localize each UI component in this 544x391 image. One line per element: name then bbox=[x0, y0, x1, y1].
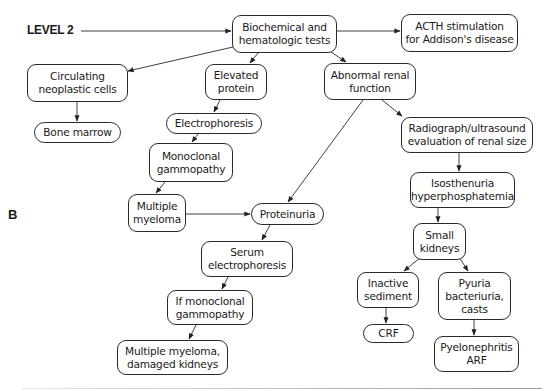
node-electrophoresis: Electrophoresis bbox=[166, 113, 262, 134]
arrow-if-monoclonal-to-damaged bbox=[189, 325, 196, 339]
node-proteinuria: Proteinuria bbox=[251, 203, 324, 225]
node-biochemical-tests: Biochemical and hematologic tests bbox=[232, 15, 337, 53]
node-bone-marrow: Bone marrow bbox=[34, 122, 121, 143]
node-serum-electrophoresis: Serum electrophoresis bbox=[201, 241, 293, 277]
node-elevated-protein: Elevated protein bbox=[205, 64, 267, 100]
node-monoclonal-gammopathy: Monoclonal gammopathy bbox=[149, 143, 233, 182]
arrow-serum-to-if-monoclonal bbox=[222, 277, 228, 289]
node-radiograph-ultrasound: Radiograph/ultrasound evaluation of rena… bbox=[401, 117, 533, 153]
node-inactive-sediment: Inactive sediment bbox=[357, 272, 419, 308]
level-label: LEVEL 2 bbox=[27, 23, 73, 37]
panel-label: B bbox=[8, 207, 17, 222]
arrow-elevated-to-electrophoresis bbox=[214, 100, 220, 112]
arrow-abnormal-renal-to-radiograph bbox=[382, 100, 402, 116]
node-small-kidneys: Small kidneys bbox=[413, 223, 466, 260]
node-circulating-cells: Circulating neoplastic cells bbox=[27, 64, 128, 102]
node-pyuria: Pyuria bacteriuria, casts bbox=[438, 272, 511, 320]
arrow-abnormal-renal-to-proteinuria bbox=[288, 100, 363, 202]
node-acth-stimulation: ACTH stimulation for Addison's disease bbox=[401, 14, 518, 52]
node-myeloma-damaged-kidneys: Multiple myeloma, damaged kidneys bbox=[117, 340, 228, 375]
arrow-biochemical-to-elevated bbox=[250, 53, 258, 63]
arrow-monoclonal-to-myeloma bbox=[156, 182, 165, 193]
diagnostic-flowchart: LEVEL 2 B Biochemical and hematologic te… bbox=[0, 0, 544, 391]
arrow-proteinuria-to-serum bbox=[262, 225, 270, 240]
arrow-electrophoresis-to-monoclonal bbox=[192, 134, 198, 142]
node-abnormal-renal-function: Abnormal renal function bbox=[324, 63, 416, 100]
node-pyelonephritis: Pyelonephritis ARF bbox=[434, 336, 519, 372]
node-if-monoclonal: If monoclonal gammopathy bbox=[167, 290, 253, 325]
node-crf: CRF bbox=[363, 324, 414, 343]
bottom-divider bbox=[22, 388, 542, 389]
node-multiple-myeloma: Multiple myeloma bbox=[128, 194, 186, 232]
node-isosthenuria: Isosthenuria hyperphosphatemia bbox=[410, 172, 515, 208]
arrow-biochemical-to-abnormal-renal bbox=[331, 52, 346, 62]
